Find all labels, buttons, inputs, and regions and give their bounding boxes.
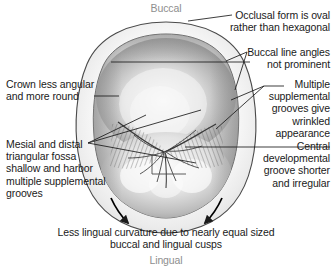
annotation-occlusal-form: Occlusal form is oval rather than hexago… [190,9,330,33]
annotation-central-developmental-groove: Central developmental groove shorter and… [232,140,330,189]
orientation-label-lingual: Lingual [0,254,332,266]
figure-caption: Less lingual curvature due to nearly equ… [36,226,296,250]
annotation-multiple-supplemental-grooves: Multiple supplemental grooves give wrink… [244,78,330,139]
annotation-crown-less-angular: Crown less angular and more round [6,78,112,102]
annotation-mesial-distal-fossa: Mesial and distal triangular fossa shall… [6,138,124,199]
tooth-anatomy-diagram: Buccal Lingual Occlusal form is oval rat… [0,0,332,269]
annotation-buccal-line-angles: Buccal line angles not prominent [190,46,330,70]
